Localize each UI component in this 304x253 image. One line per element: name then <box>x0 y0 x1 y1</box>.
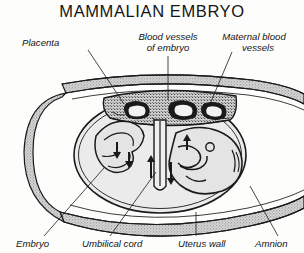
label-umbilical-cord: Umbilical cord <box>82 238 143 249</box>
maternal-vessel-lumen-2 <box>175 105 193 117</box>
label-placenta: Placenta <box>22 37 59 48</box>
label-blood-vessels-line2: of embryo <box>147 42 190 53</box>
label-blood-vessels-line1: Blood vessels <box>138 31 197 42</box>
label-maternal-blood-line1: Maternal blood <box>222 31 286 42</box>
label-maternal-blood-line2: vessels <box>242 42 274 53</box>
label-amnion: Amnion <box>254 238 288 249</box>
placenta-structure <box>103 90 236 125</box>
page-title: MAMMALIAN EMBRYO <box>59 2 244 20</box>
label-uterus-wall: Uterus wall <box>178 238 226 249</box>
mammalian-embryo-diagram: MAMMALIAN EMBRYO <box>0 0 304 253</box>
maternal-vessel-lumen-1 <box>129 106 146 117</box>
label-embryo: Embryo <box>16 238 50 249</box>
